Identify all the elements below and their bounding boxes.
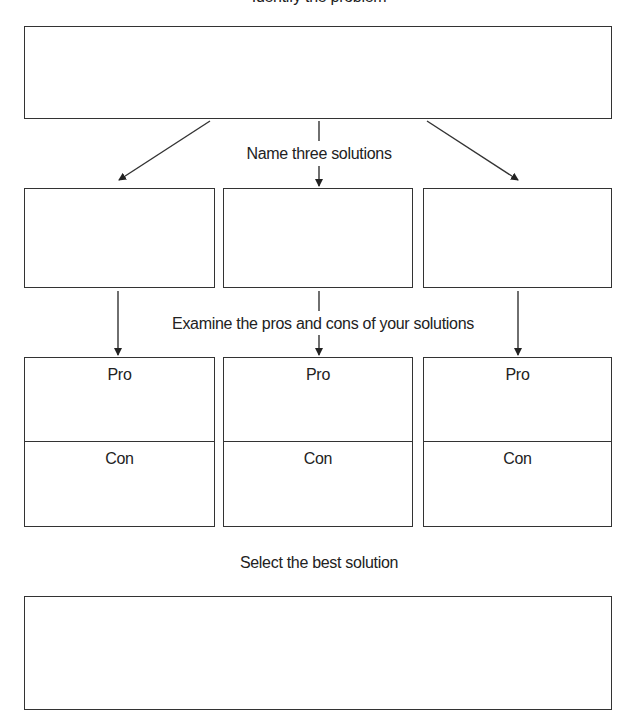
pro-con-divider bbox=[224, 441, 412, 442]
solution-box-2[interactable] bbox=[223, 188, 413, 288]
name-three-solutions-label: Name three solutions bbox=[246, 145, 391, 163]
best-solution-box[interactable] bbox=[24, 596, 612, 710]
pro-con-divider bbox=[25, 441, 214, 442]
con-label: Con bbox=[25, 450, 214, 468]
solution-box-3[interactable] bbox=[423, 188, 612, 288]
arrow-left-diagonal bbox=[119, 121, 210, 180]
pros-cons-box-3: Pro Con bbox=[423, 357, 612, 527]
examine-pros-cons-label: Examine the pros and cons of your soluti… bbox=[172, 315, 474, 333]
pro-label: Pro bbox=[424, 366, 611, 384]
pro-con-divider bbox=[424, 441, 611, 442]
con-label: Con bbox=[424, 450, 611, 468]
pro-label: Pro bbox=[25, 366, 214, 384]
select-best-solution-label: Select the best solution bbox=[240, 554, 398, 572]
con-label: Con bbox=[224, 450, 412, 468]
pro-label: Pro bbox=[224, 366, 412, 384]
solution-box-1[interactable] bbox=[24, 188, 215, 288]
arrow-right-diagonal bbox=[427, 121, 518, 180]
pros-cons-box-2: Pro Con bbox=[223, 357, 413, 527]
pros-cons-box-1: Pro Con bbox=[24, 357, 215, 527]
